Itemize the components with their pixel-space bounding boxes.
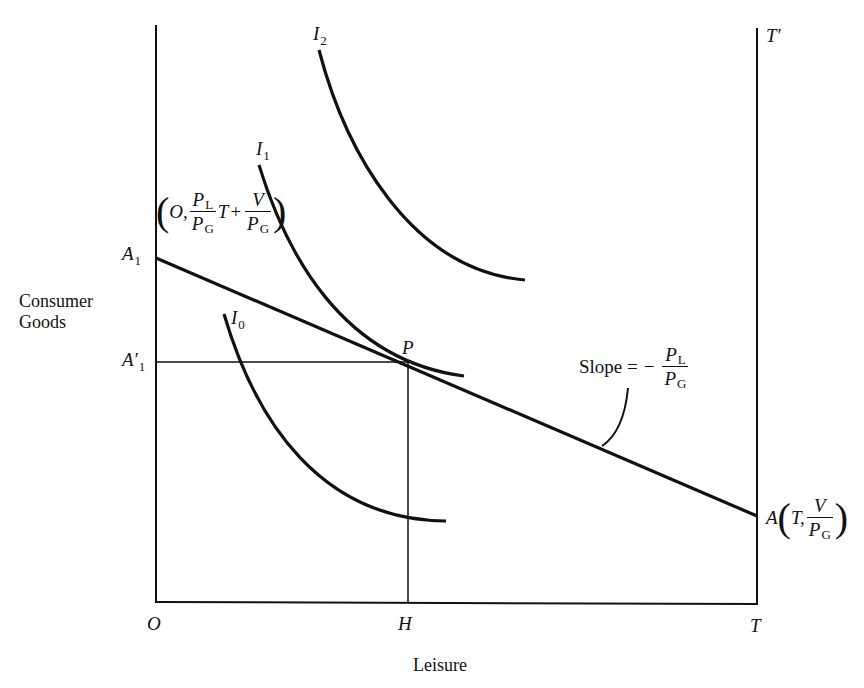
label-a1-prime: A′1 [122,350,145,369]
y-axis-label-line1: Consumer [19,292,93,310]
x-axis [156,602,758,604]
a-coordinate: A ( T, V PG ) [766,496,848,539]
indifference-curve-i2 [319,50,525,280]
label-t-prime: T′ [766,26,781,45]
diagram-canvas [0,0,864,688]
label-t: T [750,616,761,635]
slope-leader [602,388,628,446]
label-i0: I0 [231,308,245,327]
a1-coordinate: ( O, PL PG T + V PG ) [156,190,286,233]
label-i1: I1 [256,139,270,158]
label-origin: O [147,614,161,633]
slope-annotation: Slope = − PL PG [579,345,690,388]
label-a1: A1 [122,244,141,263]
label-i2: I2 [313,24,327,43]
label-p: P [402,338,414,357]
y-axis-label-line2: Goods [19,313,66,331]
x-axis-label: Leisure [413,656,467,674]
indifference-curve-i1 [259,165,464,376]
label-h: H [398,614,412,633]
